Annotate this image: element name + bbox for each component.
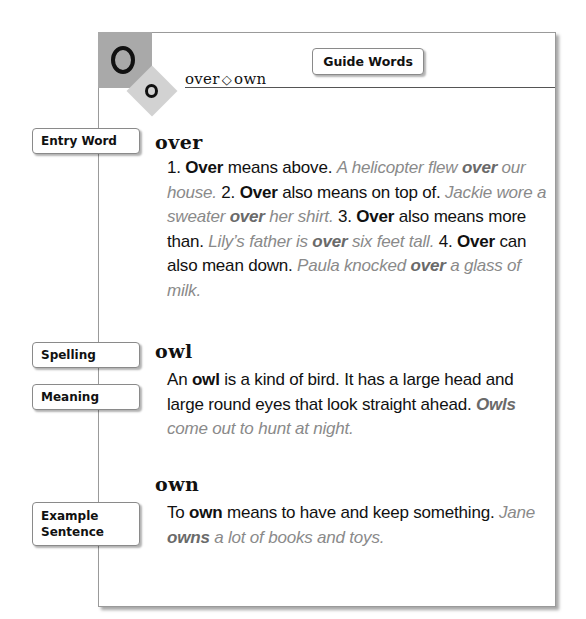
entry-word-over: over xyxy=(155,131,203,153)
headword-bold: owl xyxy=(192,370,220,389)
definition-text: 2. xyxy=(217,183,240,202)
example-headword: over xyxy=(411,256,446,275)
guide-word-first: over xyxy=(185,70,220,88)
example-label-line2: Sentence xyxy=(41,525,104,539)
headword-bold: Over xyxy=(457,232,495,251)
definition-over: 1. Over means above. A helicopter flew o… xyxy=(167,156,547,303)
example-text: her shirt. xyxy=(265,207,334,226)
headword-bold: own xyxy=(189,503,222,522)
example-text: A helicopter flew xyxy=(337,158,462,177)
entry-word-own: own xyxy=(155,473,199,495)
definition-text: 3. xyxy=(333,207,356,226)
meaning-label: Meaning xyxy=(32,384,140,410)
example-headword: over xyxy=(312,232,347,251)
example-text: Paula knocked xyxy=(297,256,410,275)
entry-word-owl: owl xyxy=(155,340,193,362)
guide-words-label: Guide Words xyxy=(312,48,424,75)
example-label-line1: Example xyxy=(41,509,98,523)
entry-word-label: Entry Word xyxy=(32,128,140,154)
headword-bold: Over xyxy=(356,207,394,226)
example-headword: over xyxy=(462,158,497,177)
headword-bold: Over xyxy=(240,183,278,202)
example-text: six feet tall. xyxy=(347,232,434,251)
header-divider xyxy=(185,87,555,88)
definition-own: To own means to have and keep something.… xyxy=(167,501,547,550)
definition-text: 1. xyxy=(167,158,185,177)
spelling-label: Spelling xyxy=(32,342,140,368)
definition-owl: An owl is a kind of bird. It has a large… xyxy=(167,368,547,442)
guide-word-last: own xyxy=(234,70,266,88)
lowercase-o-letter-icon xyxy=(145,84,158,98)
example-text: come out to hunt at night. xyxy=(167,419,354,438)
example-headword: Owls xyxy=(476,395,516,414)
uppercase-o-letter-icon xyxy=(111,46,135,74)
diamond-separator-icon: ◇ xyxy=(222,72,232,87)
definition-text: means above. xyxy=(223,158,336,177)
headword-bold: Over xyxy=(185,158,223,177)
definition-text: An xyxy=(167,370,192,389)
definition-text: To xyxy=(167,503,189,522)
guide-words: over◇own xyxy=(185,70,267,88)
example-text: a lot of books and toys. xyxy=(210,528,385,547)
definition-text: is a kind of bird. It has a large head a… xyxy=(167,370,513,414)
example-text: Jane xyxy=(499,503,535,522)
example-headword: over xyxy=(230,207,265,226)
example-text: Lily’s father is xyxy=(208,232,312,251)
definition-text: also means on top of. xyxy=(278,183,445,202)
definition-text: means to have and keep something. xyxy=(222,503,499,522)
definition-text: 4. xyxy=(434,232,457,251)
example-headword: owns xyxy=(167,528,210,547)
example-sentence-label: ExampleSentence xyxy=(32,502,140,546)
